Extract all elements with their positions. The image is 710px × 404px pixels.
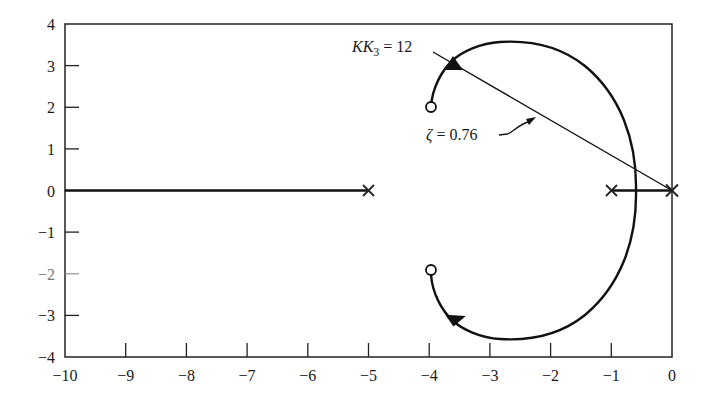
y-tick-label: 1 — [47, 141, 55, 158]
y-tick-label: −4 — [38, 349, 55, 366]
y-tick-label: −3 — [38, 307, 55, 324]
y-tick-label: 0 — [47, 183, 55, 200]
x-tick-label: 0 — [668, 367, 676, 384]
y-tick-label: 3 — [47, 58, 55, 75]
zero-marker-lower — [426, 265, 436, 275]
x-tick-label: −8 — [178, 367, 195, 384]
gain-label-main: KK — [351, 38, 375, 55]
x-ticks — [126, 343, 612, 357]
gain-label-rest: = 12 — [379, 38, 412, 55]
y-tick-label: −2 — [38, 266, 55, 283]
x-tick-label: −6 — [299, 367, 316, 384]
x-tick-label: −4 — [421, 367, 438, 384]
y-tick-label: −1 — [38, 224, 55, 241]
x-tick-labels: −10 −9 −8 −7 −6 −5 −4 −3 −2 −1 0 — [52, 367, 676, 384]
y-tick-label: 4 — [47, 16, 55, 33]
x-tick-label: −10 — [52, 367, 77, 384]
zeta-arrowhead-icon — [526, 117, 536, 125]
x-tick-label: −1 — [603, 367, 620, 384]
zeta-leader-line — [499, 121, 531, 135]
gain-annotation-label: KK3 = 12 — [351, 38, 412, 59]
y-tick-labels: 4 3 2 1 0 −1 −2 −3 −4 — [38, 16, 55, 366]
zeta-value: = 0.76 — [432, 126, 477, 143]
x-tick-label: −2 — [542, 367, 559, 384]
locus-upper-branch — [431, 42, 636, 191]
x-tick-label: −5 — [360, 367, 377, 384]
y-tick-label: 2 — [47, 99, 55, 116]
zeta-annotation-label: ζ = 0.76 — [426, 126, 478, 144]
zero-marker-upper — [426, 102, 436, 112]
root-locus-chart: 4 3 2 1 0 −1 −2 −3 −4 −10 −9 −8 −7 −6 −5… — [0, 0, 710, 404]
x-tick-label: −3 — [481, 367, 498, 384]
x-tick-label: −7 — [239, 367, 256, 384]
gain-marker-upper — [444, 56, 463, 70]
x-tick-label: −9 — [117, 367, 134, 384]
